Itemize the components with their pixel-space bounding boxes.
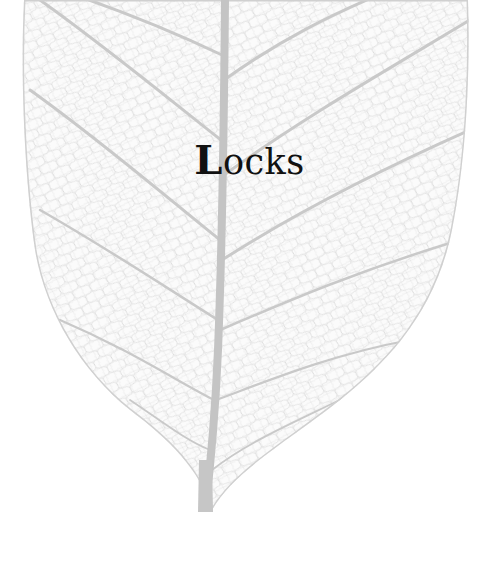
book-cover: Locks bbox=[0, 0, 491, 564]
title-initial: L bbox=[194, 136, 223, 183]
leaf-stem bbox=[198, 460, 213, 512]
title-rest: ocks bbox=[223, 142, 305, 182]
cover-title: Locks bbox=[0, 136, 491, 183]
leaf-body bbox=[0, 0, 491, 564]
skeleton-leaf-illustration bbox=[0, 0, 491, 564]
